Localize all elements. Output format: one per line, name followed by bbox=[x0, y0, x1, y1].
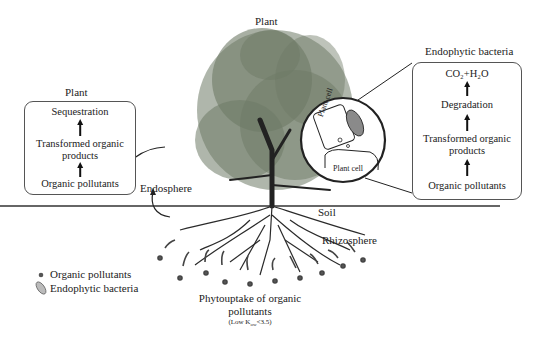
step-degradation: Degradation bbox=[413, 99, 521, 111]
step-organic-pollutants: Organic pollutants bbox=[25, 178, 135, 190]
lower-plant-cell-label: Plant cell bbox=[333, 164, 363, 173]
step-transformed: Transformed organic products bbox=[413, 133, 521, 157]
right-process-box: CO₂+H₂O Degradation Transformed organic … bbox=[412, 62, 522, 200]
phytouptake-line-1: Phytouptake of organic bbox=[190, 292, 310, 305]
kow-condition: (Low Kow<3.5) bbox=[190, 318, 310, 329]
legend-endophytic-bacteria: Endophytic bacteria bbox=[50, 282, 138, 294]
arrow-up-icon bbox=[466, 119, 468, 131]
step-co2-h2o: CO₂+H₂O bbox=[413, 68, 521, 80]
step-sequestration: Sequestration bbox=[25, 106, 135, 118]
endosphere-label: Endosphere bbox=[140, 182, 192, 194]
arrow-up-icon bbox=[79, 167, 81, 177]
right-panel-heading: Endophytic bacteria bbox=[425, 45, 513, 57]
pollutant-uptake-icons bbox=[158, 240, 365, 286]
rhizosphere-label: Rhizosphere bbox=[322, 234, 377, 246]
left-process-box: Sequestration Transformed organic produc… bbox=[24, 101, 136, 195]
arrow-up-icon bbox=[79, 124, 81, 136]
step-organic-pollutants: Organic pollutants bbox=[413, 180, 521, 192]
dot-icon bbox=[39, 273, 44, 278]
left-panel-heading: Plant bbox=[65, 86, 88, 98]
arrow-up-icon bbox=[466, 86, 468, 96]
step-transformed: Transformed organic products bbox=[25, 138, 135, 162]
phytouptake-caption: Phytouptake of organic pollutants (Low K… bbox=[190, 292, 310, 329]
plant-title: Plant bbox=[255, 15, 278, 27]
bacterium-icon bbox=[34, 280, 48, 295]
legend-organic-pollutants: Organic pollutants bbox=[50, 268, 131, 280]
arrow-up-icon bbox=[466, 164, 468, 176]
phytouptake-line-2: pollutants bbox=[190, 305, 310, 318]
soil-label: Soil bbox=[318, 206, 336, 218]
